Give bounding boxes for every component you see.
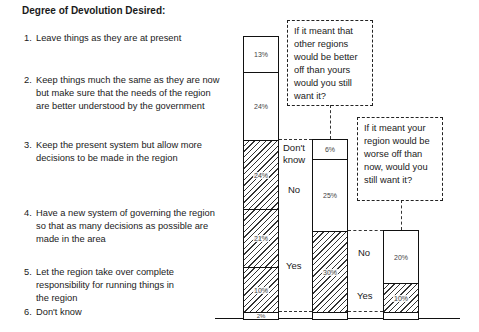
dash-connector-bottom-2	[348, 311, 383, 312]
bar-3-seg-20: 20%	[384, 231, 418, 283]
bar-1-seg-2: 2%	[244, 312, 278, 319]
bar-1: 13% 24% 24% 21% 10% 2%	[243, 36, 279, 320]
bar-3-seg-10: 10%	[384, 283, 418, 312]
bar-2-seg-25: 25%	[313, 159, 347, 231]
dash-connector-bottom-1	[279, 311, 312, 312]
label-dont-know: Don't know	[283, 142, 305, 166]
bar-1-seg-24a: 24%	[244, 72, 278, 140]
label-yes-2: Yes	[357, 290, 373, 302]
option-3: 3.Keep the present system but allow more…	[24, 139, 202, 165]
bar-1-seg-24b: 24%	[244, 140, 278, 209]
option-4: 4.Have a new system of governing the reg…	[24, 207, 215, 246]
dash-connector-q2	[401, 200, 402, 230]
question-box-1: If it meant that other regions would be …	[287, 20, 373, 106]
chart-title: Degree of Devolution Desired:	[22, 5, 165, 16]
option-1: 1.Leave things as they are at present	[24, 32, 181, 45]
bar-1-seg-13: 13%	[244, 37, 278, 72]
question-box-2: If it meant your region would be worse o…	[357, 117, 443, 201]
dash-connector-bar1-bar2-top	[279, 139, 312, 140]
option-6: 6.Don't know	[24, 306, 82, 319]
label-no-1: No	[288, 184, 300, 196]
bar-2-seg-30: 30%	[313, 231, 347, 312]
label-yes-1: Yes	[286, 260, 302, 272]
label-no-2: No	[358, 247, 370, 259]
bar-1-seg-10: 10%	[244, 267, 278, 312]
option-2: 2.Keep things much the same as they are …	[24, 74, 219, 113]
bar-3-seg-base	[384, 312, 418, 320]
bar-1-seg-21: 21%	[244, 209, 278, 267]
bar-2: 6% 25% 30%	[312, 139, 348, 320]
bar-3: 20% 10%	[383, 230, 419, 320]
dash-connector-q1	[330, 105, 331, 139]
dash-connector-bar2-bar3-top	[348, 230, 383, 231]
option-5: 5.Let the region take over complete resp…	[24, 266, 174, 305]
bar-2-seg-base	[313, 312, 347, 320]
bar-2-seg-6: 6%	[313, 140, 347, 159]
